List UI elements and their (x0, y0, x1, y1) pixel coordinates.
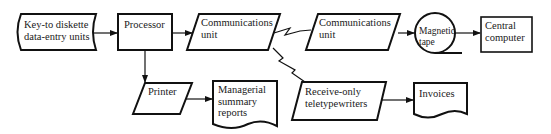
printer-label: Printer (148, 86, 177, 98)
managerial-label: Managerial summary reports (218, 84, 266, 119)
invoices-label: Invoices (419, 88, 455, 100)
receive-label: Receive-only teletypewriters (305, 86, 367, 109)
processor-label: Processor (124, 19, 165, 31)
keyto-label: Key-to diskette data-entry units (24, 19, 90, 42)
comm2-label: Communications unit (319, 17, 391, 40)
tape-label: Magnetic tape (419, 26, 455, 48)
central-label: Central computer (485, 20, 525, 43)
comm1-label: Communications unit (201, 17, 273, 40)
